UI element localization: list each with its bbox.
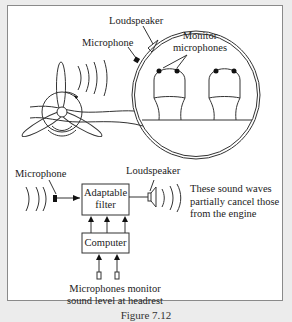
cabin-loudspeaker-icon [148,40,158,52]
adaptable-filter-label: Adaptable filter [82,187,129,211]
label-monitor-microphones: Monitor microphones [170,30,230,54]
cabin-microphone-icon [133,56,140,63]
headrest-mic-note: Microphones monitor sound level at headr… [60,283,170,307]
computer-label: Computer [82,237,129,249]
label-loudspeaker-block: Loudspeaker [126,165,180,177]
seat-right [209,69,240,120]
diagram-drawing [0,0,292,322]
block-microphone-icon [53,195,57,202]
label-loudspeaker-top: Loudspeaker [109,15,163,27]
headrest-mic-icon [115,272,119,279]
headrest-mic-icon [97,272,101,279]
propeller-blade [57,62,66,110]
label-microphone-top: Microphone [82,37,133,49]
label-microphone-block: Microphone [15,168,66,180]
seat-left [154,69,185,120]
figure-caption: Figure 7.12 [0,309,292,321]
cancel-note: These sound waves partially cancel those… [190,183,279,221]
